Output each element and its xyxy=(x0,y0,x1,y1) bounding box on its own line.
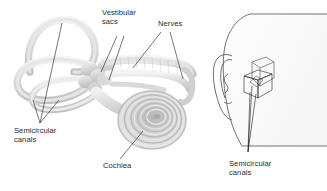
leader-nerves-2 xyxy=(170,32,183,79)
anatomy-illustration xyxy=(0,0,327,191)
label-semicircular-canals-right: Semicircular canals xyxy=(229,159,271,178)
figure-canvas: Vestibular sacs Nerves Semicircular cana… xyxy=(0,0,327,191)
label-vestibular-sacs: Vestibular sacs xyxy=(102,8,136,27)
head-profile-group xyxy=(213,14,327,152)
label-cochlea: Cochlea xyxy=(103,161,131,170)
label-nerves: Nerves xyxy=(158,19,182,28)
label-semicircular-canals-left: Semicircular canals xyxy=(14,126,56,145)
cochlea-spiral xyxy=(118,91,186,149)
